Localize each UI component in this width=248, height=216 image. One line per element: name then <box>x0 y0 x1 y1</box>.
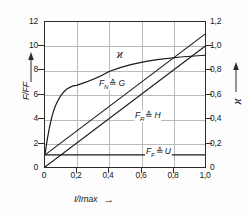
label-fr-h: FR≙H <box>134 110 161 122</box>
x-tickmark-0-8 <box>173 168 174 173</box>
chart-figure: 12 10 8 6 4 2 0 1,2 1,0 0,8 0,6 0,4 0,2 … <box>0 0 248 216</box>
y-right-tickmark-0-6 <box>206 94 212 95</box>
x-tickmark-0-4 <box>108 168 109 173</box>
x-axis-arrow-icon: → <box>103 193 114 205</box>
y-right-tickmark-0-2 <box>206 143 212 144</box>
y-axis-right-arrow-icon <box>231 62 241 92</box>
label-ff-u-value: U <box>165 146 171 156</box>
label-fn-g: FN≙G <box>98 78 126 90</box>
y-axis-left-label-text: F/FF <box>21 82 31 100</box>
x-tickmark-0-6 <box>141 168 142 173</box>
y-left-tick-10: 10 <box>16 41 38 50</box>
y-axis-left-arrow-icon <box>26 52 36 82</box>
label-ff-u-equiv: ≙ <box>155 146 165 156</box>
curve-kappa <box>45 55 205 155</box>
y-right-tickmark-0-8 <box>206 69 212 70</box>
x-axis-label: I/Imax→ <box>74 192 114 204</box>
x-tickmark-0-2 <box>76 168 77 173</box>
x-tick-1-0: 1,0 <box>192 171 218 180</box>
label-fr-h-value: H <box>154 110 160 120</box>
line-fn-g <box>45 34 205 155</box>
y-left-tick-12: 12 <box>16 17 38 26</box>
curve-kappa-annotation: ϰ <box>116 49 124 60</box>
label-ff-u: FF≙U <box>145 146 172 158</box>
label-fn-g-equiv: ≙ <box>108 78 118 88</box>
label-fn-g-value: G <box>118 78 125 88</box>
x-tick-0: 0 <box>31 171 57 180</box>
x-axis-label-text: I/Imax <box>74 194 97 204</box>
y-left-tick-2: 2 <box>16 139 38 148</box>
plot-area: ϰ FN≙G FR≙H FF≙U <box>44 21 206 168</box>
y-right-tick-1-0: 1,0 <box>210 41 236 50</box>
chart-curves <box>45 22 205 167</box>
y-right-tickmark-1-0 <box>206 45 212 46</box>
y-right-tick-1-2: 1,2 <box>210 17 236 26</box>
label-fr-h-equiv: ≙ <box>144 110 154 120</box>
y-right-tickmark-0-4 <box>206 118 212 119</box>
line-fr-h <box>45 46 205 167</box>
y-right-tick-0-2: 0,2 <box>210 139 236 148</box>
